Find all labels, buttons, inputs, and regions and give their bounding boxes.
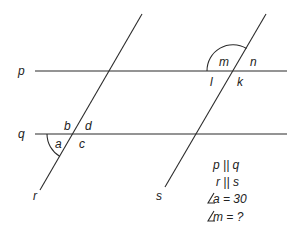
angle-label-m: m (219, 55, 229, 69)
label-s: s (156, 189, 162, 203)
angle-label-n: n (250, 55, 257, 69)
angle-label-l: l (210, 75, 213, 89)
given-angle-m: m = ? (208, 210, 244, 224)
angle-label-k: k (237, 75, 244, 89)
label-p: p (17, 64, 25, 78)
line-r (40, 14, 142, 190)
label-q: q (18, 127, 25, 141)
label-r: r (33, 189, 38, 203)
given-angle-a-text: a = 30 (213, 192, 247, 206)
given-p-parallel-q: p || q (212, 158, 240, 172)
angle-label-c: c (79, 137, 85, 151)
parallel-lines-diagram: p q r s b d a c m n l k p || q r || s a … (0, 0, 305, 242)
angle-label-a: a (55, 137, 62, 151)
given-angle-m-text: m = ? (213, 210, 244, 224)
given-angle-a: a = 30 (208, 192, 247, 206)
given-r-parallel-s: r || s (216, 175, 239, 189)
angle-label-b: b (64, 119, 71, 133)
angle-label-d: d (85, 119, 92, 133)
